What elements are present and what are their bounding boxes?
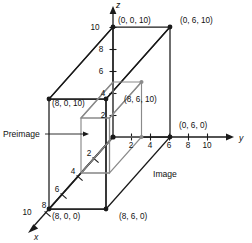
preimage-label: Preimage [3, 129, 40, 139]
vertex-dot [140, 80, 144, 84]
x-tick-label-10: 10 [22, 208, 32, 217]
x-tick-label-8: 8 [42, 201, 47, 210]
vertex-dot [47, 97, 52, 102]
image-label: Image [153, 169, 177, 179]
vertex-dot [168, 135, 173, 140]
y-tick-label-4: 4 [148, 141, 153, 150]
y-axis-label: y [238, 133, 244, 143]
z-tick-label-6: 6 [99, 67, 104, 76]
preimage-arrowhead [83, 132, 89, 137]
y-tick-label-6: 6 [167, 141, 172, 150]
vertex-dot [104, 207, 109, 212]
coordinate-system-diagram: (0, 0, 10) (0, 6, 10) (8, 0, 10) (8, 6, … [0, 0, 252, 243]
point-label-0-6-10: (0, 6, 10) [180, 16, 213, 25]
vertex-dot [111, 25, 116, 30]
x-tick-label-6: 6 [55, 185, 60, 194]
image-annotation: Image [153, 169, 177, 179]
point-label-0-0-10: (0, 0, 10) [118, 16, 151, 25]
vertex-dot [168, 25, 173, 30]
point-labels: (0, 0, 10) (0, 6, 10) (8, 0, 10) (8, 6, … [52, 16, 213, 221]
z-tick-label-2: 2 [101, 111, 106, 120]
point-label-8-0-10: (8, 0, 10) [52, 99, 85, 108]
z-tick-label-8: 8 [99, 45, 104, 54]
vertex-dot [110, 134, 115, 139]
vertex-dot [140, 135, 144, 139]
z-tick-label-10: 10 [90, 23, 100, 32]
x-tick-label-2: 2 [87, 149, 92, 158]
point-label-0-6-0: (0, 6, 0) [179, 121, 207, 130]
axis-name-labels: z y x [33, 0, 244, 242]
z-axis-label: z [115, 0, 121, 10]
y-tick-labels: 2 4 6 8 10 [129, 141, 212, 150]
y-tick-label-8: 8 [186, 141, 191, 150]
point-label-8-0-0: (8, 0, 0) [52, 212, 80, 221]
point-label-8-6-0: (8, 6, 0) [119, 212, 147, 221]
x-tick-label-4: 4 [71, 167, 76, 176]
point-label-8-6-10: (8, 6, 10) [124, 95, 157, 104]
preimage-annotation: Preimage [3, 129, 89, 139]
y-tick-label-10: 10 [202, 141, 212, 150]
z-tick-label-4: 4 [101, 89, 106, 98]
vertex-dot [47, 207, 52, 212]
y-tick-label-2: 2 [129, 141, 134, 150]
x-axis-label: x [33, 232, 39, 242]
